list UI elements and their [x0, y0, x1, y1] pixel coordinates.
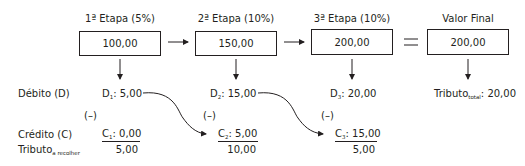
- stage-1-result: 5,00: [102, 144, 138, 155]
- stage-2-result: 10,00: [218, 144, 256, 155]
- stage-2-minus: (–): [203, 110, 216, 121]
- stage-1-debit: D1: 5,00: [102, 88, 142, 100]
- stage-2-value: 150,00: [219, 38, 254, 49]
- tributo-recolher-label: Tributoa recolher: [18, 144, 80, 156]
- curved-arrow-icon: [258, 93, 323, 134]
- stage-2-credit: C2: 5,00: [218, 128, 258, 142]
- stage-2-title: 2ª Etapa (10%): [186, 13, 286, 24]
- debit-label: Débito (D): [18, 88, 70, 99]
- stage-1-box: 100,00: [79, 31, 161, 56]
- final-value: 200,00: [451, 37, 486, 48]
- stage-3-box: 200,00: [311, 29, 393, 55]
- final-box: 200,00: [427, 29, 509, 55]
- stage-3-title: 3ª Etapa (10%): [302, 13, 402, 24]
- stage-2-box: 150,00: [195, 31, 277, 56]
- stage-3-debit: D3: 20,00: [330, 88, 376, 100]
- connector-lines: [0, 0, 525, 166]
- final-title: Valor Final: [418, 13, 518, 24]
- stage-2-debit: D2: 15,00: [210, 88, 256, 100]
- tributo-total: Tributototal: 20,00: [434, 88, 516, 100]
- stage-3-result: 5,00: [335, 144, 375, 155]
- stage-3-value: 200,00: [335, 37, 370, 48]
- stage-1-title: 1ª Etapa (5%): [70, 13, 170, 24]
- stage-1-minus: (–): [84, 110, 97, 121]
- stage-1-value: 100,00: [103, 38, 138, 49]
- credit-label: Crédito (C): [18, 129, 72, 140]
- curved-arrow-icon: [143, 93, 206, 134]
- stage-3-credit: C3: 15,00: [335, 128, 377, 142]
- stage-3-minus: (–): [321, 110, 334, 121]
- stage-1-credit: C1: 0,00: [102, 128, 140, 142]
